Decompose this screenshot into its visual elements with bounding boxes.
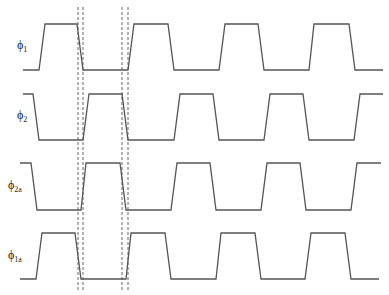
waveform-phi1	[23, 24, 383, 70]
label-phi1: ϕ1	[17, 38, 27, 54]
timing-diagram: ϕ1 ϕ2 ϕ2a ϕ1a	[0, 0, 389, 295]
waveform-phi2a	[20, 163, 381, 210]
waveform-phi2	[23, 94, 383, 140]
label-phi1a: ϕ1a	[8, 248, 22, 264]
waveform-phi1a	[20, 233, 379, 279]
label-phi2a: ϕ2a	[8, 178, 22, 194]
label-phi2: ϕ2	[17, 108, 27, 124]
